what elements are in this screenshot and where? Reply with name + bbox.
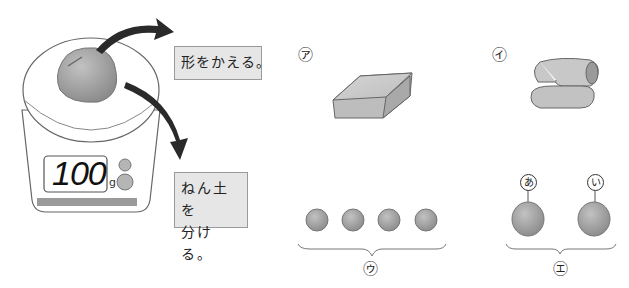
scale-unit: g <box>109 176 116 189</box>
label-change-shape: 形をかえる。 <box>174 46 262 80</box>
label-split-clay-line1: ねん土を <box>181 177 241 221</box>
clay-lump <box>57 48 116 102</box>
two-clay-balls <box>506 190 616 254</box>
option-label-a: ㋐ <box>298 48 313 63</box>
four-clay-balls <box>298 209 446 256</box>
label-change-shape-text: 形をかえる。 <box>181 54 271 70</box>
clay-block <box>333 73 412 118</box>
scale-display-value: 100 <box>52 154 106 193</box>
illustration-canvas <box>0 0 629 288</box>
sub-label-a: あ <box>520 174 537 191</box>
option-label-u: ㋒ <box>363 262 378 277</box>
label-split-clay-line2: 分ける。 <box>181 221 241 265</box>
option-label-i: ㋑ <box>492 48 507 63</box>
clay-rope <box>531 58 598 108</box>
option-label-e: ㋓ <box>553 262 568 277</box>
label-split-clay: ねん土を 分ける。 <box>174 172 248 228</box>
sub-label-i: い <box>587 174 604 191</box>
